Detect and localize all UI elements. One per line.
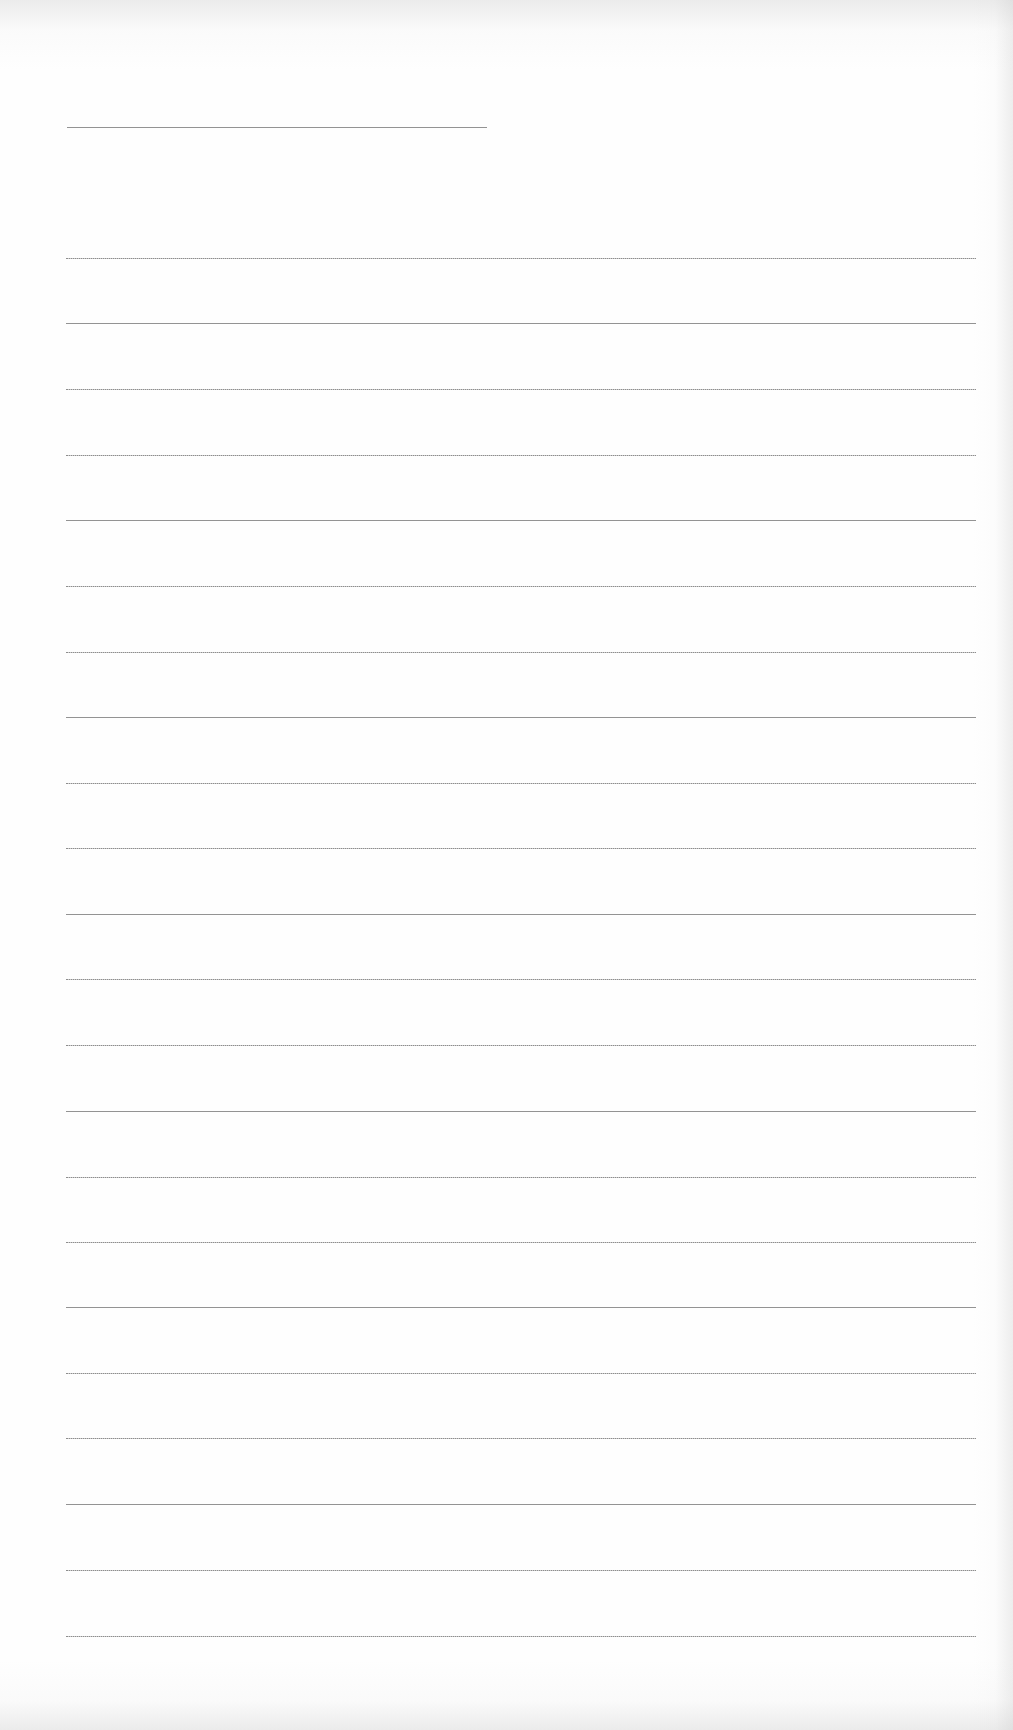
ruled-line — [66, 455, 976, 456]
ruled-line — [66, 520, 976, 521]
ruled-line — [66, 914, 976, 915]
ruled-line — [66, 1177, 976, 1178]
ruled-line — [66, 848, 976, 849]
ruled-line — [66, 1504, 976, 1505]
ruled-line — [66, 1438, 976, 1439]
ruled-line — [66, 323, 976, 324]
ruled-line — [66, 258, 976, 259]
ruled-line — [66, 979, 976, 980]
header-rule — [67, 127, 487, 128]
ruled-line — [66, 1111, 976, 1112]
ruled-line — [66, 1636, 976, 1637]
ruled-line — [66, 586, 976, 587]
lined-paper-sheet — [0, 0, 1013, 1730]
ruled-line — [66, 1373, 976, 1374]
ruled-line — [66, 783, 976, 784]
ruled-line — [66, 717, 976, 718]
ruled-line — [66, 1242, 976, 1243]
ruled-line — [66, 1045, 976, 1046]
ruled-line — [66, 1570, 976, 1571]
ruled-line — [66, 389, 976, 390]
ruled-line — [66, 1307, 976, 1308]
ruled-line — [66, 652, 976, 653]
